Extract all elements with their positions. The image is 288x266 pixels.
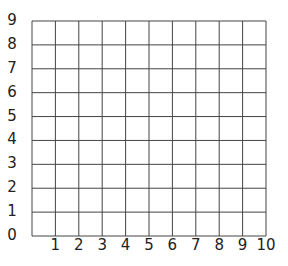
y-tick-label: 6 — [5, 85, 19, 100]
x-tick-label: 5 — [137, 238, 161, 253]
x-tick-label: 6 — [160, 238, 184, 253]
x-tick-label: 2 — [67, 238, 91, 253]
x-tick-label: 7 — [184, 238, 208, 253]
x-tick-label: 3 — [90, 238, 114, 253]
y-tick-label: 5 — [5, 109, 19, 124]
y-tick-label: 0 — [5, 228, 19, 243]
coordinate-grid — [0, 0, 288, 266]
x-tick-label: 4 — [114, 238, 138, 253]
x-tick-label: 9 — [231, 238, 255, 253]
y-tick-label: 7 — [5, 61, 19, 76]
y-tick-label: 4 — [5, 132, 19, 147]
y-tick-label: 9 — [5, 13, 19, 28]
y-tick-label: 2 — [5, 180, 19, 195]
x-tick-label: 1 — [43, 238, 67, 253]
y-tick-label: 3 — [5, 156, 19, 171]
y-tick-label: 1 — [5, 204, 19, 219]
y-tick-label: 8 — [5, 37, 19, 52]
x-tick-label: 10 — [254, 238, 278, 253]
x-tick-label: 8 — [207, 238, 231, 253]
